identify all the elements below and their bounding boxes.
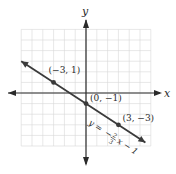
- y-axis-top-arrow-icon: [83, 19, 89, 28]
- coordinate-plane: x y (−3, 1)(0, −1)(3, −3) y = − 2 3 x − …: [0, 0, 176, 174]
- y-axis-label: y: [81, 5, 89, 18]
- equation-rest: x − 1: [115, 136, 140, 157]
- x-axis-right-arrow-icon: [154, 90, 162, 96]
- x-axis-label: x: [164, 87, 171, 100]
- x-axis-left-arrow-icon: [8, 90, 16, 96]
- equation-lhs: y =: [86, 117, 105, 134]
- point-label: (3, −3): [122, 113, 154, 123]
- point-label: (0, −1): [90, 93, 122, 103]
- data-point: [84, 101, 89, 106]
- point-label: (−3, 1): [49, 65, 81, 75]
- y-axis-bottom-arrow-icon: [83, 157, 89, 166]
- x-axis: [8, 90, 162, 96]
- data-point: [116, 122, 121, 127]
- plotted-line: [21, 61, 145, 142]
- data-point: [51, 80, 56, 85]
